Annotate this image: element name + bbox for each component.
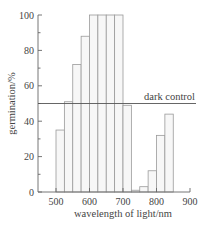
- bar-550-575: [73, 65, 81, 192]
- y-tick-label: 20: [24, 151, 34, 162]
- y-tick-label: 60: [24, 80, 34, 91]
- y-tick-label: 0: [29, 187, 34, 198]
- x-tick-label: 900: [183, 196, 198, 207]
- bar-825-850: [165, 114, 173, 192]
- x-tick-label: 600: [82, 196, 97, 207]
- x-tick-label: 800: [149, 196, 164, 207]
- germination-bar-chart: 020406080100500600700800900dark controlw…: [0, 0, 208, 225]
- y-axis-title: germination/%: [6, 72, 17, 135]
- y-tick-label: 100: [19, 10, 34, 21]
- bar-500-525: [56, 130, 64, 192]
- bar-750-775: [140, 187, 148, 192]
- dark-control-label: dark control: [144, 91, 195, 102]
- y-tick-label: 40: [24, 116, 34, 127]
- bar-775-800: [148, 171, 156, 192]
- bar-575-600: [81, 36, 89, 192]
- x-tick-label: 700: [116, 196, 131, 207]
- bar-700-725: [123, 105, 131, 192]
- y-tick-label: 80: [24, 45, 34, 56]
- x-tick-label: 500: [49, 196, 64, 207]
- x-axis-title: wavelength of light/nm: [74, 208, 172, 219]
- bar-525-550: [64, 102, 72, 192]
- bar-800-825: [157, 135, 165, 192]
